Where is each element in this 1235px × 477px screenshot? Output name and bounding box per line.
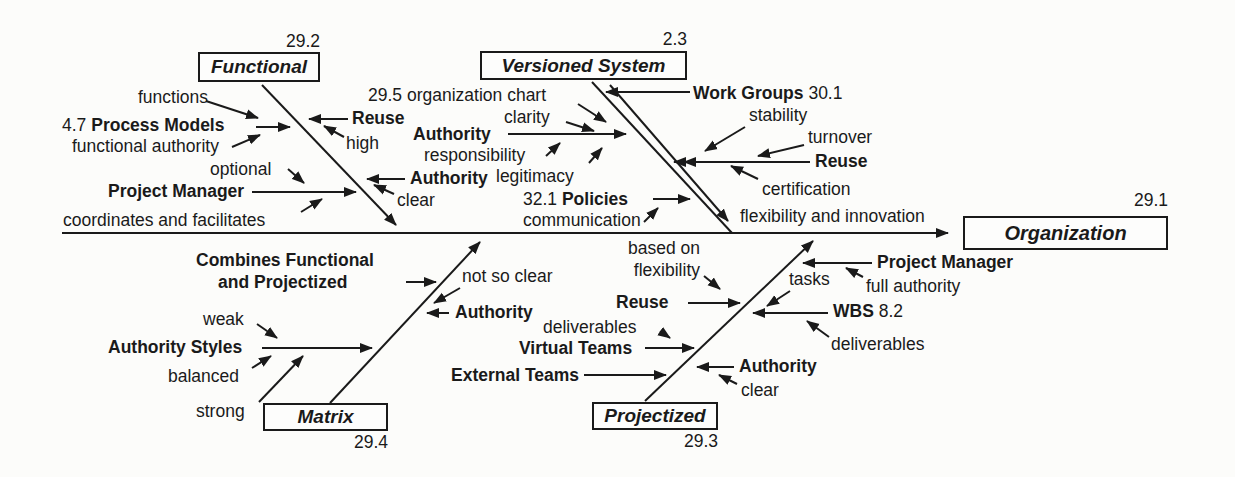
turnover-arrow — [758, 145, 804, 156]
tasks-arrow — [767, 291, 790, 306]
functions-label: functions — [138, 88, 208, 107]
fishbone-diagram: 29.2 Functional 2.3 Versioned System 29.… — [0, 0, 1235, 477]
authority-m-label: Authority — [455, 303, 533, 322]
org-chart-text: organization chart — [407, 85, 546, 105]
not-so-clear-label: not so clear — [462, 267, 552, 286]
turnover-label: turnover — [808, 128, 872, 147]
clarity-label: clarity — [504, 108, 550, 127]
reuse-v-label: Reuse — [815, 152, 868, 171]
balanced-arrow — [252, 356, 271, 368]
work-groups-number: 30.1 — [808, 83, 842, 103]
functional-authority-arrow — [232, 135, 260, 147]
functional-box: Functional — [198, 52, 320, 82]
matrix-box-label: Matrix — [298, 406, 354, 428]
reuse-f-label: Reuse — [352, 109, 405, 128]
communication-label: communication — [523, 211, 641, 230]
functional-number: 29.2 — [270, 32, 320, 51]
balanced-label: balanced — [168, 367, 239, 386]
optional-label: optional — [210, 160, 271, 179]
projectized-box-label: Projectized — [604, 405, 705, 427]
deliverables-r-label: deliverables — [831, 335, 924, 354]
policies-label: 32.1 Policies — [523, 190, 628, 209]
clear-p-arrow — [719, 375, 737, 384]
reuse-v-second-arrowhead — [683, 157, 696, 167]
legitimacy-arrow — [589, 148, 602, 163]
organization-box-label: Organization — [1004, 222, 1126, 245]
flexibility-innovation-label: flexibility and innovation — [740, 207, 925, 226]
deliverables-r-arrow — [807, 321, 829, 337]
organization-number: 29.1 — [1118, 191, 1168, 210]
process-models-label: 4.7 Process Models — [62, 116, 224, 135]
stability-arrow — [705, 127, 745, 151]
clear-p-label: clear — [741, 381, 779, 400]
functional-box-label: Functional — [211, 56, 307, 78]
clear-f-arrow — [374, 185, 394, 194]
policies-text: Policies — [562, 189, 628, 209]
authority-styles-label: Authority Styles — [108, 338, 242, 357]
coordinates-label: coordinates and facilitates — [63, 211, 265, 230]
legitimacy-label: legitimacy — [496, 167, 574, 186]
responsibility-arrow — [546, 143, 560, 156]
functional-bone — [262, 85, 396, 225]
full-authority-label: full authority — [866, 277, 960, 296]
tasks-label: tasks — [789, 270, 830, 289]
project-manager-p-label: Project Manager — [877, 253, 1013, 272]
weak-arrow — [257, 324, 277, 338]
wbs-label: WBS 8.2 — [833, 302, 903, 321]
reuse-p-label: Reuse — [616, 293, 669, 312]
org-chart-number: 29.5 — [368, 85, 402, 105]
matrix-number: 29.4 — [338, 433, 388, 452]
based-on-arrow — [704, 276, 720, 289]
work-groups-label: Work Groups 30.1 — [693, 84, 842, 103]
deliverables-l-arrow — [660, 331, 670, 338]
certification-arrow — [731, 166, 758, 179]
functional-authority-label: functional authority — [72, 137, 219, 156]
strong-label: strong — [196, 402, 245, 421]
authority-p-label: Authority — [739, 357, 817, 376]
authority-f-label: Authority — [410, 169, 488, 188]
based-on-label: based on — [620, 239, 700, 258]
optional-arrow — [288, 169, 304, 183]
versioned-box: Versioned System — [480, 51, 687, 80]
full-authority-arrow — [846, 268, 863, 277]
clear-f-label: clear — [397, 191, 435, 210]
clarity-arrow — [566, 122, 594, 131]
external-teams-label: External Teams — [451, 366, 579, 385]
coordinates-arrow — [301, 199, 322, 212]
policies-number: 32.1 — [523, 189, 557, 209]
versioned-box-label: Versioned System — [501, 55, 665, 77]
combines-line2-label: and Projectized — [218, 273, 347, 292]
strong-arrow — [259, 356, 303, 402]
certification-label: certification — [762, 180, 851, 199]
matrix-box: Matrix — [263, 403, 388, 431]
wbs-text: WBS — [833, 301, 874, 321]
high-label: high — [346, 134, 379, 153]
wbs-number: 8.2 — [879, 301, 903, 321]
projectized-box: Projectized — [592, 402, 718, 430]
process-models-text: Process Models — [91, 115, 224, 135]
virtual-teams-label: Virtual Teams — [519, 339, 632, 358]
authority-v-label: Authority — [413, 125, 491, 144]
combines-line1-label: Combines Functional — [196, 251, 374, 270]
responsibility-label: responsibility — [424, 146, 525, 165]
versioned-number: 2.3 — [637, 30, 687, 49]
org-chart-label: 29.5 organization chart — [368, 86, 546, 105]
weak-label: weak — [203, 310, 244, 329]
project-manager-f-label: Project Manager — [108, 182, 244, 201]
projectized-number: 29.3 — [668, 432, 718, 451]
process-models-number: 4.7 — [62, 115, 86, 135]
work-groups-text: Work Groups — [693, 83, 804, 103]
deliverables-l-label: deliverables — [543, 318, 636, 337]
stability-label: stability — [749, 106, 807, 125]
organization-box: Organization — [963, 216, 1168, 250]
flexibility-label: flexibility — [620, 261, 700, 280]
not-so-clear-arrow — [434, 288, 460, 303]
communication-arrow — [644, 208, 658, 222]
high-arrow — [324, 126, 344, 137]
org-chart-arrow — [578, 104, 606, 122]
